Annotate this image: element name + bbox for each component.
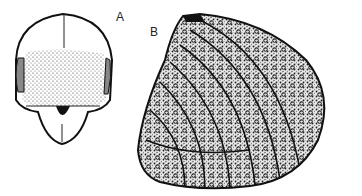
panel-a-head xyxy=(16,14,112,144)
figure-drawing xyxy=(0,0,362,196)
panel-label-a: A xyxy=(116,10,124,24)
panel-label-b: B xyxy=(150,25,158,39)
panel-b-plate xyxy=(138,14,324,190)
scientific-figure: A B xyxy=(0,0,362,196)
